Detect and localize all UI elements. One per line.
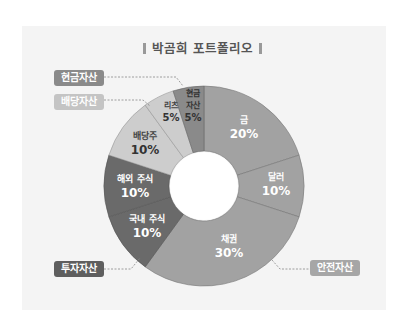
label-dollar-pct: 10% — [262, 184, 291, 198]
label-foreign-pct: 10% — [121, 186, 150, 200]
label-foreign-name: 해외 주식 — [117, 173, 152, 184]
legend-tag-cash: 현금자산 — [54, 70, 104, 86]
label-cash-pct: 5% — [185, 112, 202, 123]
label-domestic-name: 국내 주식 — [129, 213, 164, 224]
label-gold-pct: 20% — [230, 127, 259, 141]
label-cash-line2: 자산 — [186, 100, 201, 110]
donut-chart: 금 20% 달러 10% 채권 30% 국내 주식 10% 해외 주식 10% … — [0, 0, 405, 329]
label-cash-line1: 현금 — [186, 88, 201, 98]
label-dividend-name: 배당주 — [133, 130, 157, 141]
label-dollar-name: 달러 — [268, 171, 284, 182]
leader-dividend — [104, 100, 150, 106]
legend-tag-dividend: 배당자산 — [54, 94, 104, 110]
donut-hole — [170, 152, 238, 220]
leader-safe — [272, 260, 310, 269]
label-bond-pct: 30% — [215, 246, 244, 260]
label-reits-name: 리츠 — [164, 100, 179, 110]
label-gold-name: 금 — [240, 115, 249, 125]
label-reits-pct: 5% — [163, 112, 180, 123]
label-dividend-pct: 10% — [131, 143, 160, 157]
leader-cash — [104, 77, 183, 86]
label-bond-name: 채권 — [221, 233, 237, 244]
leader-invest — [104, 258, 140, 269]
label-domestic-pct: 10% — [133, 226, 162, 240]
legend-tag-safe: 안전자산 — [310, 260, 360, 276]
legend-tag-invest: 투자자산 — [54, 261, 104, 277]
